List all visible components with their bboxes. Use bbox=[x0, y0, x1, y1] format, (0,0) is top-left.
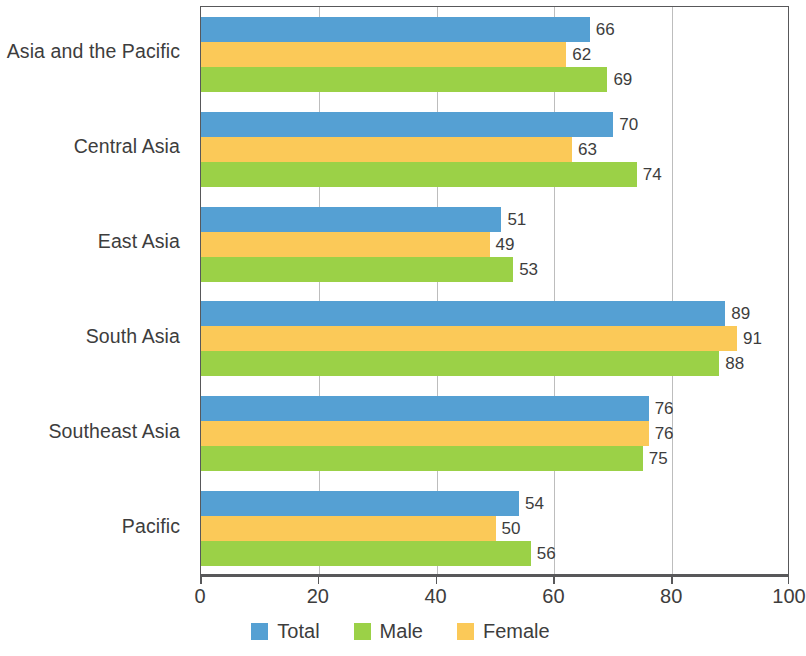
legend-item-total[interactable]: Total bbox=[251, 620, 319, 643]
bar-female-5 bbox=[201, 516, 496, 541]
bar-total-5 bbox=[201, 491, 519, 516]
legend-item-male[interactable]: Male bbox=[354, 620, 423, 643]
bar-value-label: 51 bbox=[501, 207, 526, 232]
category-label-2: East Asia bbox=[0, 230, 180, 253]
legend-label: Total bbox=[277, 620, 319, 643]
x-axis-line bbox=[200, 575, 789, 577]
bar-value-label: 62 bbox=[566, 42, 591, 67]
legend-label: Male bbox=[380, 620, 423, 643]
bar-value-label: 88 bbox=[719, 351, 744, 376]
bar-total-0 bbox=[201, 17, 590, 42]
x-tick-100 bbox=[788, 575, 790, 584]
gridline-40 bbox=[437, 7, 438, 574]
legend-swatch-total-icon bbox=[251, 623, 268, 640]
bar-value-label: 76 bbox=[649, 421, 674, 446]
x-tick-0 bbox=[200, 575, 202, 584]
category-label-5: Pacific bbox=[0, 515, 180, 538]
bar-value-label: 63 bbox=[572, 137, 597, 162]
x-tick-20 bbox=[318, 575, 320, 584]
x-tick-label-80: 80 bbox=[660, 585, 682, 608]
bar-value-label: 89 bbox=[725, 301, 750, 326]
bar-male-5 bbox=[201, 541, 531, 566]
bar-total-4 bbox=[201, 396, 649, 421]
bar-total-3 bbox=[201, 301, 725, 326]
bar-value-label: 49 bbox=[490, 232, 515, 257]
bar-value-label: 91 bbox=[737, 326, 762, 351]
bar-female-3 bbox=[201, 326, 737, 351]
gridline-60 bbox=[554, 7, 555, 574]
bar-value-label: 56 bbox=[531, 541, 556, 566]
x-tick-40 bbox=[436, 575, 438, 584]
legend-swatch-male-icon bbox=[354, 623, 371, 640]
legend-item-female[interactable]: Female bbox=[457, 620, 550, 643]
bar-value-label: 69 bbox=[607, 67, 632, 92]
chart-legend: TotalMaleFemale bbox=[0, 620, 801, 643]
x-tick-label-100: 100 bbox=[772, 585, 805, 608]
plot-area: 666269706374514953899188767675545056 bbox=[200, 6, 789, 575]
gridline-80 bbox=[672, 7, 673, 574]
gridline-20 bbox=[319, 7, 320, 574]
x-tick-label-40: 40 bbox=[424, 585, 446, 608]
bar-female-4 bbox=[201, 421, 649, 446]
bar-male-1 bbox=[201, 162, 637, 187]
bar-value-label: 66 bbox=[590, 17, 615, 42]
x-tick-label-60: 60 bbox=[542, 585, 564, 608]
bar-value-label: 70 bbox=[613, 112, 638, 137]
bar-total-2 bbox=[201, 207, 501, 232]
bar-value-label: 50 bbox=[496, 516, 521, 541]
category-label-3: South Asia bbox=[0, 325, 180, 348]
bar-male-4 bbox=[201, 446, 643, 471]
category-label-4: Southeast Asia bbox=[0, 420, 180, 443]
bar-male-0 bbox=[201, 67, 607, 92]
bar-value-label: 75 bbox=[643, 446, 668, 471]
bar-value-label: 74 bbox=[637, 162, 662, 187]
bar-value-label: 53 bbox=[513, 257, 538, 282]
x-tick-label-20: 20 bbox=[307, 585, 329, 608]
bar-total-1 bbox=[201, 112, 613, 137]
x-tick-80 bbox=[671, 575, 673, 584]
bar-value-label: 54 bbox=[519, 491, 544, 516]
bar-male-3 bbox=[201, 351, 719, 376]
bar-male-2 bbox=[201, 257, 513, 282]
x-tick-label-0: 0 bbox=[194, 585, 205, 608]
category-label-0: Asia and the Pacific bbox=[0, 40, 180, 63]
bar-value-label: 76 bbox=[649, 396, 674, 421]
category-label-1: Central Asia bbox=[0, 135, 180, 158]
bar-female-1 bbox=[201, 137, 572, 162]
legend-label: Female bbox=[483, 620, 550, 643]
bar-female-0 bbox=[201, 42, 566, 67]
bar-female-2 bbox=[201, 232, 490, 257]
legend-swatch-female-icon bbox=[457, 623, 474, 640]
x-tick-60 bbox=[553, 575, 555, 584]
